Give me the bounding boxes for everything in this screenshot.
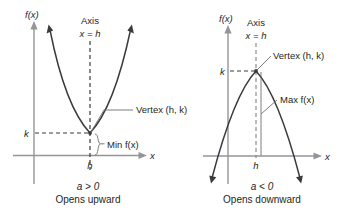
x-axis-label-right: x — [324, 151, 331, 162]
y-axis-label-right: f(x) — [219, 13, 233, 24]
min-label-left-prefix: Min f(x) — [107, 139, 139, 150]
panel-opens-upward: f(x) x Axis x = h k h Vertex (h, k) — [13, 9, 187, 205]
parabola-upward — [50, 30, 131, 133]
axis-label-left-line2: x = h — [79, 28, 101, 39]
caption-right-line1: a < 0 — [251, 181, 274, 192]
quadratic-vertex-figure: f(x) x Axis x = h k h Vertex (h, k) — [0, 0, 345, 215]
k-label-right: k — [220, 66, 226, 77]
min-brace-left — [95, 134, 101, 155]
min-label-left: Min f(x) — [107, 139, 139, 150]
vertex-leader-left — [91, 110, 133, 132]
vertex-label-left: Vertex (h, k) — [136, 104, 187, 115]
x-axis-left — [13, 152, 147, 159]
panel-opens-downward: f(x) x Axis x = h k h Vertex (h, k) — [203, 13, 331, 205]
max-leader-right — [261, 100, 277, 114]
axis-label-right-line1: Axis — [247, 17, 265, 28]
max-label-right: Max f(x) — [280, 94, 314, 105]
x-axis-right — [203, 152, 322, 159]
h-label-right: h — [253, 160, 258, 171]
y-axis-left — [30, 21, 37, 184]
axis-label-right-line2: x = h — [245, 30, 267, 41]
caption-right-line2: Opens downward — [223, 194, 301, 205]
x-axis-label-left: x — [149, 150, 156, 161]
vertex-leader-right — [257, 56, 271, 70]
caption-left-line1: a > 0 — [77, 181, 100, 192]
y-axis-right — [224, 25, 231, 184]
caption-left-line2: Opens upward — [55, 194, 120, 205]
y-axis-label-left: f(x) — [25, 9, 39, 20]
h-label-left: h — [87, 160, 92, 171]
vertex-label-right: Vertex (h, k) — [273, 50, 324, 61]
max-label-right-text: Max f(x) — [280, 94, 314, 105]
axis-label-left-line1: Axis — [81, 15, 99, 26]
k-label-left: k — [24, 128, 30, 139]
vertex-label-left-text: Vertex (h, k) — [136, 104, 187, 115]
vertex-label-right-text: Vertex (h, k) — [273, 50, 324, 61]
